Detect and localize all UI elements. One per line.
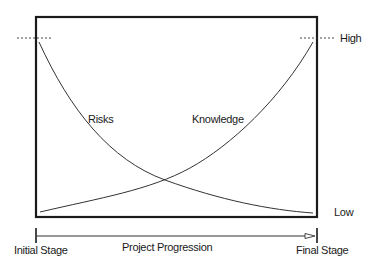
high-level-label: High (340, 32, 361, 44)
final-stage-label: Final Stage (296, 244, 348, 256)
diagram-canvas (0, 0, 373, 267)
low-level-label: Low (334, 206, 353, 218)
initial-stage-label: Initial Stage (14, 244, 68, 256)
knowledge-curve (40, 42, 313, 212)
progression-arrow-head-icon (305, 234, 315, 239)
risks-label: Risks (88, 113, 113, 125)
knowledge-label: Knowledge (192, 113, 244, 125)
project-progression-label: Project Progression (122, 241, 212, 253)
risks-curve (39, 42, 313, 213)
chart-frame (36, 17, 317, 217)
